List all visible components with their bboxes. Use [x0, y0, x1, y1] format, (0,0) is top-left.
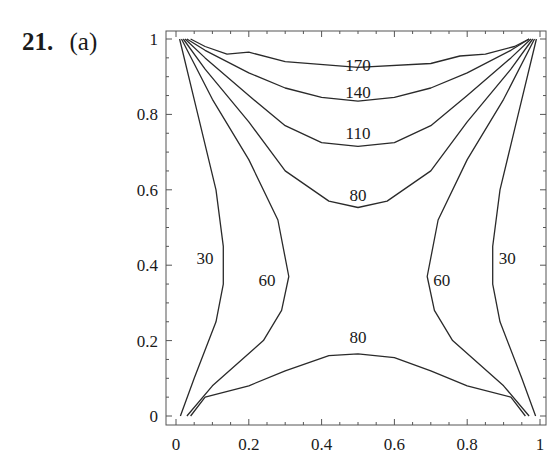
- y-tick-label: 0: [150, 407, 159, 426]
- x-tick-label: 0.4: [311, 435, 333, 454]
- x-tick-label: 0: [172, 435, 181, 454]
- y-tick-label: 1: [150, 30, 159, 49]
- contour-line-30: [493, 39, 537, 416]
- y-tick-label: 0.2: [137, 332, 158, 351]
- contour-label-60: 60: [433, 271, 450, 290]
- contour-label-110: 110: [346, 124, 371, 143]
- contour-plot: 00.20.40.60.8100.20.40.60.81 17014011080…: [0, 0, 560, 461]
- contour-line-60: [182, 39, 289, 416]
- contour-line-60: [427, 39, 534, 416]
- contour-line-30: [180, 39, 224, 416]
- y-tick-label: 0.4: [137, 256, 159, 275]
- contour-label-170: 170: [345, 56, 371, 75]
- contour-label-30: 30: [197, 249, 214, 268]
- x-tick-label: 0.6: [384, 435, 405, 454]
- contour-label-140: 140: [345, 83, 371, 102]
- x-tick-label: 1: [536, 435, 545, 454]
- contour-label-30: 30: [499, 249, 516, 268]
- contour-label-80: 80: [350, 186, 367, 205]
- x-tick-label: 0.2: [238, 435, 259, 454]
- contour-label-80: 80: [350, 328, 367, 347]
- y-tick-label: 0.8: [137, 105, 158, 124]
- contour-label-60: 60: [259, 271, 276, 290]
- y-tick-label: 0.6: [137, 181, 158, 200]
- contour-line-80: [191, 354, 526, 416]
- contour-labels: 170140110803060603080: [197, 56, 516, 346]
- x-tick-label: 0.8: [457, 435, 478, 454]
